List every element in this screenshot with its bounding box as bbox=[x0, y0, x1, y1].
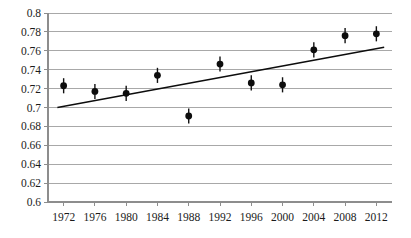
x-tick-label: 1988 bbox=[177, 211, 200, 223]
data-point bbox=[310, 46, 317, 53]
y-tick-label: 0.62 bbox=[21, 177, 41, 189]
y-tick-label: 0.6 bbox=[27, 196, 42, 208]
y-tick-label: 0.68 bbox=[21, 120, 41, 132]
x-tick-label: 1980 bbox=[115, 211, 138, 223]
x-tick-label: 1992 bbox=[209, 211, 232, 223]
y-tick-label: 0.66 bbox=[21, 139, 41, 151]
y-tick-label: 0.74 bbox=[21, 64, 41, 76]
data-point bbox=[60, 82, 67, 89]
chart-container: 0.80.780.760.740.720.70.680.660.640.620.… bbox=[0, 0, 411, 238]
data-point bbox=[217, 61, 224, 68]
data-point bbox=[342, 32, 349, 39]
x-tick-label: 1972 bbox=[52, 211, 75, 223]
y-tick-label: 0.76 bbox=[21, 45, 41, 57]
x-tick-label: 2008 bbox=[334, 211, 357, 223]
x-tick-label: 2000 bbox=[271, 211, 294, 223]
data-point bbox=[185, 113, 192, 120]
data-point bbox=[123, 90, 130, 97]
y-tick-label: 0.7 bbox=[27, 102, 42, 114]
data-point bbox=[154, 72, 161, 79]
y-tick-label: 0.72 bbox=[21, 83, 41, 95]
data-point bbox=[248, 80, 255, 87]
data-point bbox=[373, 30, 380, 37]
y-tick-label: 0.64 bbox=[21, 158, 41, 170]
data-point bbox=[92, 88, 99, 95]
x-tick-label: 2004 bbox=[302, 211, 325, 223]
x-tick-label: 2012 bbox=[365, 211, 388, 223]
x-tick-label: 1984 bbox=[146, 211, 169, 223]
data-point bbox=[279, 81, 286, 88]
y-tick-label: 0.78 bbox=[21, 26, 41, 38]
y-tick-label: 0.8 bbox=[27, 7, 42, 19]
x-tick-label: 1996 bbox=[240, 211, 263, 223]
scatter-plot-with-trendline: 0.80.780.760.740.720.70.680.660.640.620.… bbox=[0, 0, 411, 238]
x-axis-tick-labels: 1972197619801984198819921996200020042008… bbox=[52, 211, 388, 223]
x-tick-label: 1976 bbox=[83, 211, 106, 223]
